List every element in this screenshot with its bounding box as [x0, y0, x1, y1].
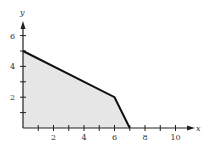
y-axis-label: y: [19, 8, 25, 17]
x-tick-label: 10: [170, 133, 180, 142]
shaded-region: [23, 51, 130, 128]
chart: 246810246 x y: [0, 0, 208, 151]
x-axis-label: x: [196, 124, 201, 133]
y-tick-label: 2: [10, 93, 15, 102]
x-axis-arrow-icon: [187, 126, 195, 131]
x-tick-label: 6: [112, 133, 117, 142]
y-tick-label: 4: [10, 62, 15, 71]
y-axis-arrow-icon: [21, 21, 26, 29]
x-tick-label: 2: [51, 133, 56, 142]
feasible-region: [23, 51, 130, 128]
x-tick-label: 4: [81, 133, 86, 142]
y-tick-label: 6: [10, 32, 15, 41]
x-tick-label: 8: [142, 133, 147, 142]
